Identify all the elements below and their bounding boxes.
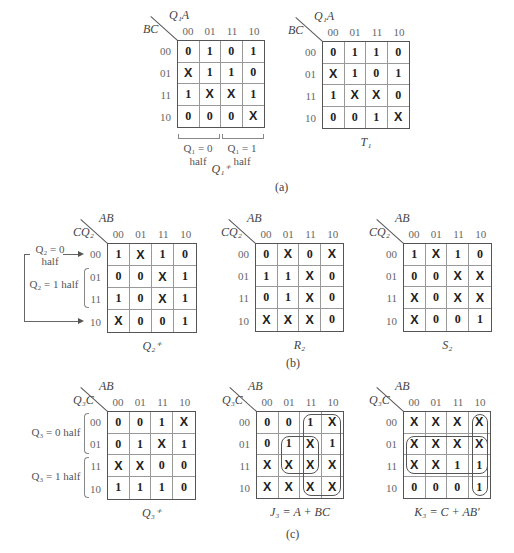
kmap-cell: X bbox=[299, 287, 321, 309]
kmap-cell: 1 bbox=[243, 41, 265, 63]
kmap-cell: 0 bbox=[108, 412, 130, 434]
kmap-cell: 1 bbox=[130, 434, 152, 456]
kmap-caption: S₂ bbox=[373, 338, 514, 353]
kmap-cell: 1 bbox=[243, 84, 265, 106]
row-header: 11 bbox=[229, 292, 249, 304]
kmap-grid: 1X1000XXX0XXX001 bbox=[403, 243, 492, 332]
kmap-cell: 0 bbox=[108, 266, 130, 288]
row-header: 11 bbox=[377, 460, 397, 472]
kmap-cell: 1 bbox=[404, 244, 426, 266]
column-variable-label: AB bbox=[99, 211, 114, 226]
kmap-cell: X bbox=[323, 64, 345, 86]
kmap-cell: 0 bbox=[130, 288, 152, 310]
column-variable-label: Q₁A bbox=[314, 9, 334, 24]
row-header: 11 bbox=[151, 89, 171, 101]
kmap-cell: 0 bbox=[447, 477, 469, 499]
kmap-cell: 0 bbox=[426, 477, 448, 499]
column-variable-label: AB bbox=[99, 379, 114, 394]
kmap-cell: 0 bbox=[221, 41, 243, 63]
kmap-caption: Q₂⁺ bbox=[77, 339, 227, 354]
kmap-cell: X bbox=[108, 455, 130, 477]
q1-one-half-label-2: half bbox=[214, 155, 270, 168]
column-header: 00 bbox=[177, 25, 199, 37]
kmap-cell: X bbox=[130, 455, 152, 477]
kmap-cell: 1 bbox=[130, 477, 152, 499]
row-header: 11 bbox=[230, 460, 250, 472]
kmap-cell: X bbox=[243, 106, 265, 128]
kmap-cell: X bbox=[404, 412, 426, 434]
q2-one-half-brace bbox=[84, 268, 89, 308]
kmap-cell: X bbox=[130, 244, 152, 266]
row-header: 10 bbox=[229, 315, 249, 327]
kmap-grid: 1X1000X110X1X001 bbox=[107, 243, 197, 333]
column-header: 10 bbox=[470, 228, 492, 240]
kmap-cell: 1 bbox=[174, 266, 196, 288]
kmap-cell: 0 bbox=[256, 287, 278, 309]
column-header: 00 bbox=[403, 396, 425, 408]
kmap-cell: 0 bbox=[257, 412, 279, 434]
j3-group-bc-loop bbox=[281, 436, 319, 474]
kmap-cell: X bbox=[151, 434, 173, 456]
kmap-caption: R₂ bbox=[225, 338, 374, 353]
kmap-cell: 0 bbox=[257, 434, 279, 456]
column-header: 10 bbox=[174, 396, 196, 408]
row-variable-label: Q₃C bbox=[369, 393, 390, 408]
row-header: 10 bbox=[230, 482, 250, 494]
column-header: 11 bbox=[447, 228, 469, 240]
kmap-cell: X bbox=[321, 244, 343, 266]
kmap-cell: 0 bbox=[130, 266, 152, 288]
kmap-cell: 0 bbox=[404, 266, 426, 288]
kmap-cell: X bbox=[178, 63, 200, 85]
row-header: 01 bbox=[151, 67, 171, 79]
kmap-cell: 0 bbox=[243, 63, 265, 85]
kmap-cell: 1 bbox=[278, 266, 300, 288]
kmap-cell: X bbox=[426, 244, 448, 266]
k3-group-ab-prime-loop bbox=[472, 414, 488, 496]
row-header: 10 bbox=[151, 111, 171, 123]
kmap-cell: 1 bbox=[278, 287, 300, 309]
column-header: 10 bbox=[175, 228, 198, 240]
kmap-grid: 0110X1011XX0001X bbox=[322, 41, 410, 129]
kmap-cell: 0 bbox=[404, 477, 426, 499]
kmap-cell: X bbox=[108, 310, 130, 332]
column-header: 00 bbox=[403, 228, 425, 240]
column-header: 01 bbox=[130, 228, 153, 240]
kmap-cell: 0 bbox=[426, 287, 448, 309]
kmap-cell: 1 bbox=[108, 288, 130, 310]
kmap-cell: 0 bbox=[469, 244, 491, 266]
column-header: 10 bbox=[243, 25, 265, 37]
kmap-cell: X bbox=[257, 455, 279, 477]
column-variable-label: AB bbox=[395, 211, 410, 226]
column-header: 01 bbox=[199, 25, 221, 37]
column-header: 00 bbox=[322, 26, 344, 38]
column-header: 10 bbox=[388, 26, 410, 38]
kmap-cell: X bbox=[278, 244, 300, 266]
row-variable-label: CQ₂ bbox=[221, 225, 242, 240]
column-header: 01 bbox=[129, 396, 151, 408]
kmap-cell: 0 bbox=[366, 64, 388, 86]
kmap-cell: 1 bbox=[221, 63, 243, 85]
kmap-cell: X bbox=[299, 309, 321, 331]
kmap-cell: 1 bbox=[151, 477, 173, 499]
arrowhead-icon bbox=[78, 318, 84, 324]
q1-zero-half-brace bbox=[178, 134, 220, 139]
arrow-line-left-top bbox=[24, 254, 30, 255]
column-header: 00 bbox=[107, 228, 130, 240]
kmap-cell: 1 bbox=[469, 309, 491, 331]
column-header: 11 bbox=[299, 228, 321, 240]
kmap-cell: 1 bbox=[323, 85, 345, 107]
column-header: 10 bbox=[469, 396, 491, 408]
kmap-cell: X bbox=[278, 309, 300, 331]
kmap-cell: 0 bbox=[321, 287, 343, 309]
kmap-cell: 0 bbox=[221, 106, 243, 128]
column-header: 01 bbox=[425, 228, 447, 240]
part-label-c: (c) bbox=[286, 527, 299, 542]
column-header: 11 bbox=[300, 396, 322, 408]
kmap-caption: K₃ = C + AB′ bbox=[373, 505, 514, 520]
column-header: 00 bbox=[255, 228, 277, 240]
kmap-cell: 0 bbox=[108, 434, 130, 456]
kmap-cell: X bbox=[447, 287, 469, 309]
kmap-cell: X bbox=[404, 309, 426, 331]
kmap-cell: 1 bbox=[256, 266, 278, 288]
row-header: 11 bbox=[296, 90, 316, 102]
